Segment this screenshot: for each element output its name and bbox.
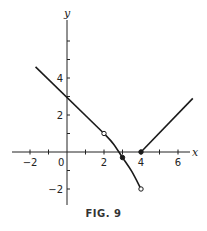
function-graph: −2246 42−2 x y 0 xyxy=(0,0,207,205)
segment-2-curve xyxy=(104,134,141,190)
x-tick-label: 4 xyxy=(138,157,144,168)
y-tick-label: −2 xyxy=(48,184,63,195)
y-tick-label: 4 xyxy=(57,73,63,84)
y-axis-label: y xyxy=(63,7,71,20)
x-tick-label: −2 xyxy=(23,157,38,168)
filled-point-marker xyxy=(139,150,143,154)
x-tick-label: 2 xyxy=(101,157,107,168)
figure-caption: FIG. 9 xyxy=(0,208,207,219)
x-axis-label: x xyxy=(192,146,199,159)
x-tick-label: 6 xyxy=(175,157,181,168)
origin-label: 0 xyxy=(58,157,64,168)
y-tick-label: 2 xyxy=(57,110,63,121)
segment-3-line xyxy=(141,98,193,152)
open-point-marker xyxy=(139,187,143,191)
segment-1-line xyxy=(36,67,104,134)
filled-point-marker xyxy=(120,155,124,159)
axes: −2246 42−2 x y 0 xyxy=(12,7,199,205)
series xyxy=(36,67,193,189)
open-point-marker xyxy=(102,131,106,135)
